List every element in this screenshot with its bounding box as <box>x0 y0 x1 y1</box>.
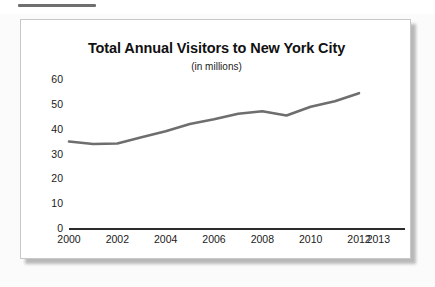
chart-panel: Total Annual Visitors to New York City (… <box>20 19 411 259</box>
data-series-line <box>21 20 412 260</box>
plot-area: 0102030405060 20002002200420062008201020… <box>21 20 412 260</box>
top-divider-rule <box>18 4 96 7</box>
